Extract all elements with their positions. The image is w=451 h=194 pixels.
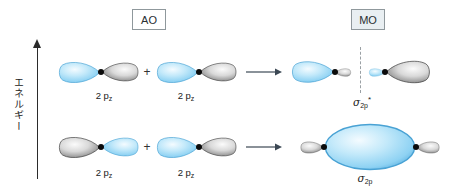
orbital-lobe-gray-large [385,56,433,88]
orbital-lobe-gray [101,59,141,85]
right-arrow-icon [246,67,282,77]
nucleus-dot [332,69,338,75]
mo-diagram: エネルギー AO MO + [0,0,451,194]
orbital-lobe-blue [101,134,141,160]
orbital-label-2pz: 2 pz [158,90,214,102]
energy-axis-line [37,46,38,179]
nucleus-dot [413,144,419,150]
orbital-lobe-gray [199,59,239,85]
nodal-plane-dashed-line [360,47,361,93]
ao-header-label: AO [141,14,157,26]
mo-label-sigma: σ2p [337,171,393,185]
ao-header-box: AO [132,9,166,30]
mo-header-box: MO [351,9,385,30]
mo-antibonding-right-fragment [368,56,433,88]
orbital-lobe-blue [56,59,101,86]
orbital-lobe-gray-small [416,139,441,156]
plus-sign: + [140,65,154,79]
orbital-lobe-blue [154,134,199,161]
orbital-lobe-gray [56,134,101,161]
ao-orbital-2pz-row1-left [56,57,141,87]
ao-orbital-2pz-row2-right [154,132,239,162]
nucleus-dot [321,144,327,150]
right-arrow-icon [246,142,282,152]
energy-axis-label: エネルギー [10,77,25,132]
orbital-label-2pz: 2 pz [76,167,132,179]
nucleus-dot [98,69,104,75]
ao-orbital-2pz-row2-left [56,132,141,162]
mo-bonding-orbital [299,123,441,171]
nucleus-dot [382,69,388,75]
orbital-lobe-blue-ellipse [324,123,416,171]
orbital-label-2pz: 2 pz [158,167,214,179]
mo-antibonding-left-fragment [289,56,352,88]
orbital-label-2pz: 2 pz [76,90,132,102]
nucleus-dot [98,144,104,150]
ao-orbital-2pz-row1-right [154,57,239,87]
mo-header-label: MO [359,14,377,26]
mo-label-sigma-star: σ2p* [334,95,390,109]
orbital-lobe-gray [199,134,239,160]
orbital-lobe-blue [154,59,199,86]
nucleus-dot [196,144,202,150]
nucleus-dot [196,69,202,75]
plus-sign: + [140,140,154,154]
orbital-lobe-blue-large [289,57,335,87]
